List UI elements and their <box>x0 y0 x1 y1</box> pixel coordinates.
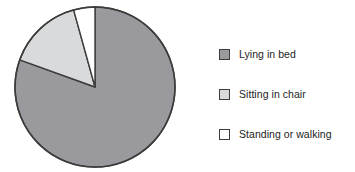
legend-item-sitting-in-chair[interactable]: Sitting in chair <box>219 74 355 114</box>
legend-label-sitting-in-chair: Sitting in chair <box>239 88 306 100</box>
pie-chart-area <box>0 0 200 172</box>
legend-label-lying-in-bed: Lying in bed <box>239 48 296 60</box>
legend-label-standing-or-walking: Standing or walking <box>239 128 332 140</box>
legend-item-standing-or-walking[interactable]: Standing or walking <box>219 114 355 154</box>
pie-chart-figure: Lying in bed Sitting in chair Standing o… <box>0 0 355 172</box>
legend-item-lying-in-bed[interactable]: Lying in bed <box>219 34 355 74</box>
legend-swatch-dark-gray <box>219 49 230 60</box>
legend-swatch-white <box>219 129 230 140</box>
pie-slice-group <box>15 7 175 167</box>
pie-chart-svg <box>0 0 200 172</box>
legend: Lying in bed Sitting in chair Standing o… <box>219 34 355 144</box>
legend-swatch-light-gray <box>219 89 230 100</box>
